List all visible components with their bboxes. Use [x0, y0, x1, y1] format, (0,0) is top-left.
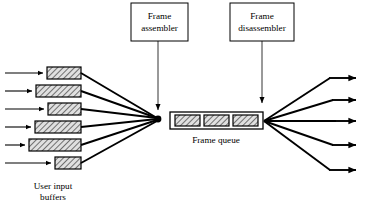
frame-assembler-box: Frame assembler — [131, 3, 188, 41]
user-input-buffer-2 — [48, 103, 81, 115]
user-input-buffers-label-line1: User input — [34, 181, 73, 191]
frame-queue-group: Frame queue — [170, 112, 263, 145]
frame-relay-diagram: Frame assembler Frame disassembler — [0, 0, 365, 208]
fan-out-line-3 — [264, 121, 333, 145]
fan-out-line-0 — [264, 78, 330, 121]
fan-out-lines-group — [264, 78, 336, 170]
fan-out-line-1 — [264, 100, 333, 121]
user-input-buffer-5 — [55, 157, 81, 169]
frame-queue-label: Frame queue — [192, 135, 240, 145]
user-input-buffer-3 — [35, 121, 81, 133]
user-input-buffers-label: User input buffers — [34, 181, 73, 202]
user-input-buffers-group — [29, 67, 81, 169]
frame-assembler-label-line1: Frame — [148, 11, 171, 21]
frame-disassembler-box: Frame disassembler — [230, 3, 294, 41]
frame-queue-cell-2 — [233, 115, 258, 126]
fan-out-line-4 — [264, 121, 330, 170]
fan-in-lines-group — [81, 73, 161, 163]
frame-assembler-label-line2: assembler — [141, 23, 178, 33]
frame-assembler-junction-dot — [155, 116, 162, 123]
output-arrows-group — [329, 78, 356, 170]
user-input-buffer-0 — [47, 67, 81, 79]
user-input-buffer-4 — [29, 139, 81, 151]
frame-queue-cell-1 — [204, 115, 229, 126]
frame-disassembler-label-line1: Frame — [250, 11, 273, 21]
user-input-buffers-label-line2: buffers — [40, 192, 66, 202]
user-input-buffer-1 — [36, 85, 81, 97]
frame-disassembler-label-line2: disassembler — [238, 23, 285, 33]
frame-queue-cell-0 — [175, 115, 200, 126]
diagram-canvas: Frame assembler Frame disassembler — [0, 0, 365, 208]
